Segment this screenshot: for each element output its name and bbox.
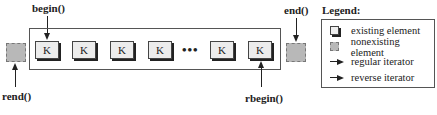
- rend-label: rend(): [2, 90, 31, 102]
- legend-box: existing element nonexisting element reg…: [321, 19, 435, 88]
- end-arrow-head-icon: [293, 35, 299, 42]
- element-4: K: [148, 41, 172, 59]
- nonexisting-element-icon: [330, 42, 339, 51]
- element-n-1: K: [210, 41, 234, 59]
- rend-arrow-shaft: [15, 69, 16, 87]
- legend-item-nonexisting: nonexisting element: [330, 39, 434, 54]
- begin-label: begin(): [32, 2, 65, 14]
- legend-item-label: existing element: [351, 25, 420, 36]
- reverse-iterator-arrow-icon: [330, 75, 344, 81]
- element-3: K: [110, 41, 134, 59]
- end-label: end(): [284, 4, 308, 16]
- legend-item-label: regular iterator: [351, 56, 414, 67]
- rend-nonexisting-element: [6, 43, 26, 62]
- legend-item-regular-iterator: regular iterator: [330, 54, 414, 69]
- legend-title: Legend:: [322, 4, 361, 16]
- end-nonexisting-element: [286, 43, 306, 62]
- element-n: K: [248, 41, 272, 59]
- end-arrow-shaft: [296, 18, 297, 36]
- existing-element-icon: [330, 26, 339, 35]
- legend-item-reverse-iterator: reverse iterator: [330, 70, 414, 85]
- legend-item-label: reverse iterator: [351, 72, 414, 83]
- element-1: K: [35, 41, 59, 59]
- rbegin-arrow-shaft: [261, 67, 262, 87]
- element-2: K: [72, 41, 96, 59]
- regular-iterator-arrow-icon: [330, 59, 344, 65]
- ellipsis: •••: [182, 42, 199, 58]
- rbegin-label: rbegin(): [245, 92, 283, 104]
